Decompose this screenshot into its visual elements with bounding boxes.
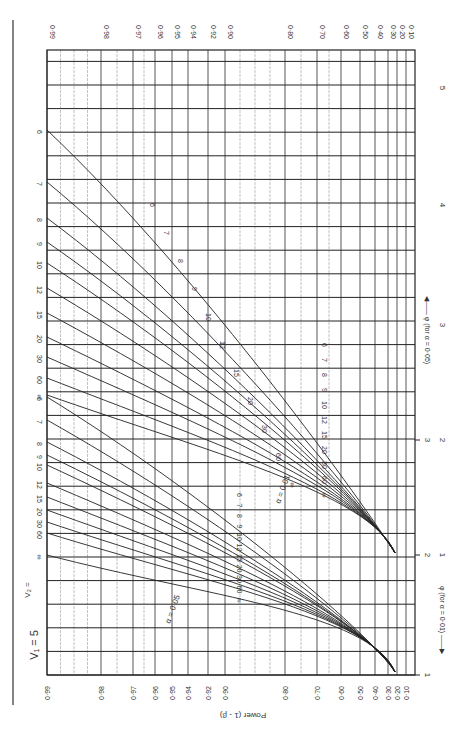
phi-001-tick-label: 1: [423, 673, 432, 678]
phi-005-tick-label: 4: [438, 203, 447, 208]
phi-005-tick-label: 3: [438, 323, 447, 328]
alpha-005-inner-label: 9: [236, 525, 243, 529]
alpha-005-curve: [47, 465, 395, 672]
power-tick-label-top: 0·10: [408, 25, 415, 39]
power-tick-label-bottom: 0·96: [152, 686, 159, 700]
alpha-001-mid-label: 7: [163, 231, 170, 235]
alpha-001-inner-label: 15: [321, 431, 328, 439]
alpha-005-start-label: 10: [36, 463, 43, 471]
power-tick-label-bottom: 0·10: [403, 686, 410, 700]
alpha-005-inner-label: 8: [236, 514, 243, 518]
power-tick-label-top: 0·98: [103, 25, 110, 39]
axis-labels: 0·990·990·980·980·970·970·960·960·950·95…: [23, 25, 447, 720]
alpha-001-inner-label: 12: [321, 416, 328, 424]
alpha-001-curve: [47, 357, 395, 553]
alpha-005-inner-label: 10: [236, 533, 243, 541]
power-tick-label-bottom: 0·40: [372, 686, 379, 700]
power-tick-label-bottom: 0·94: [185, 686, 192, 700]
power-tick-label-top: 0·94: [190, 25, 197, 39]
phi-001-axis-title: φ (for α = 0·01) ——▶: [438, 586, 446, 655]
alpha-001-inner-label: 8: [321, 373, 328, 377]
alpha-001-curve: [47, 218, 395, 553]
power-tick-label-top: 0·50: [362, 25, 369, 39]
power-tick-label-top: 0·97: [135, 25, 142, 39]
phi-001-tick-label: 2: [423, 553, 432, 558]
power-tick-label-top: 0·90: [227, 25, 234, 39]
power-tick-label-bottom: 0·30: [385, 686, 392, 700]
alpha-001-mid-label: 15: [233, 369, 240, 377]
alpha-001-curve: [47, 378, 395, 553]
alpha-001-mid-label: 20: [247, 397, 254, 405]
alpha-001-inner-label: 7: [321, 358, 328, 362]
power-curves: [47, 130, 395, 672]
power-tick-label-bottom: 0·99: [44, 686, 51, 700]
alpha-001-start-label: 20: [36, 335, 43, 343]
power-tick-label-top: 0·99: [49, 25, 56, 39]
power-tick-label-bottom: 0·20: [394, 686, 401, 700]
alpha-001-start-label: 30: [36, 355, 43, 363]
alpha-001-curve: [47, 242, 395, 553]
alpha-005-inner-label: 12: [236, 544, 243, 552]
alpha-005-start-label: ∞: [36, 555, 43, 560]
power-tick-label-bottom: 0·95: [169, 686, 176, 700]
alpha-005-curve: [47, 497, 395, 672]
alpha-001-inner-label: ∞: [321, 493, 328, 498]
power-tick-label-bottom: 0·97: [130, 686, 137, 700]
power-tick-label-bottom: 0·90: [222, 686, 229, 700]
alpha-001-inner-label: 9: [321, 388, 328, 392]
alpha-005-curve: [47, 483, 395, 672]
alpha-005-start-label: 9: [36, 455, 43, 459]
alpha-001-start-label: 12: [36, 286, 43, 294]
alpha-001-mid-label: 12: [219, 341, 226, 349]
alpha-001-inner-label: 30: [321, 461, 328, 469]
power-tick-label-top: 0·92: [210, 25, 217, 39]
alpha-005-start-label: 60: [36, 531, 43, 539]
alpha-005-start-label: 15: [36, 495, 43, 503]
alpha-005-inner-label: 60: [236, 586, 243, 594]
phi-005-tick-label: 1: [438, 553, 447, 558]
alpha-001-mid-label: 9: [191, 287, 198, 291]
alpha-001-mid-label: 10: [205, 313, 212, 321]
alpha-005-curve: [47, 522, 395, 672]
power-tick-label-top: 0·95: [174, 25, 181, 39]
alpha-001-mid-label: 30: [261, 425, 268, 433]
alpha-001-curve: [47, 395, 395, 553]
alpha-005-start-label: 30: [36, 520, 43, 528]
alpha-001-mid-label: 8: [177, 259, 184, 263]
power-tick-label-bottom: 0·92: [205, 686, 212, 700]
power-tick-label-bottom: 0·60: [338, 686, 345, 700]
phi-001-tick-label: 3: [423, 438, 432, 443]
alpha-001-mid-label: 6: [149, 203, 156, 207]
alpha-001-group-label: α = 0·01: [273, 473, 292, 505]
power-chart: 0·990·990·980·980·970·970·960·960·950·95…: [0, 0, 469, 739]
alpha-001-mid-label: 60: [275, 453, 282, 461]
alpha-005-start-label: 12: [36, 481, 43, 489]
power-tick-label-bottom: 0·70: [314, 686, 321, 700]
power-tick-label-top: 0·70: [319, 25, 326, 39]
phi-005-tick-label: 5: [438, 86, 447, 91]
alpha-005-curve: [47, 510, 395, 672]
power-axis-title: Power (1 - β): [219, 711, 266, 720]
v1-label: V₁ = 5: [28, 630, 40, 660]
v2-prefix-label: V₂ =: [23, 582, 32, 598]
power-tick-label-bottom: 0·80: [282, 686, 289, 700]
alpha-005-inner-label: 20: [236, 565, 243, 573]
alpha-001-curve: [47, 288, 395, 553]
power-tick-label-bottom: 0·50: [357, 686, 364, 700]
alpha-001-start-label: 8: [36, 218, 43, 222]
power-tick-label-bottom: 0·98: [98, 686, 105, 700]
alpha-005-inner-label: 7: [236, 504, 243, 508]
alpha-001-start-label: 9: [36, 242, 43, 246]
alpha-005-start-label: 7: [36, 420, 43, 424]
alpha-001-inner-label: 10: [321, 401, 328, 409]
alpha-001-start-label: 10: [36, 261, 43, 269]
phi-005-axis-title: ◀—— φ (for α = 0·05): [423, 296, 431, 364]
power-tick-label-top: 0·20: [399, 25, 406, 39]
phi-005-tick-label: 2: [438, 438, 447, 443]
alpha-001-mid-label: ∞: [289, 483, 296, 488]
alpha-005-start-label: 20: [36, 508, 43, 516]
alpha-005-inner-label: 30: [236, 575, 243, 583]
power-tick-label-top: 0·96: [157, 25, 164, 39]
alpha-001-start-label: 7: [36, 182, 43, 186]
alpha-001-start-label: 15: [36, 311, 43, 319]
